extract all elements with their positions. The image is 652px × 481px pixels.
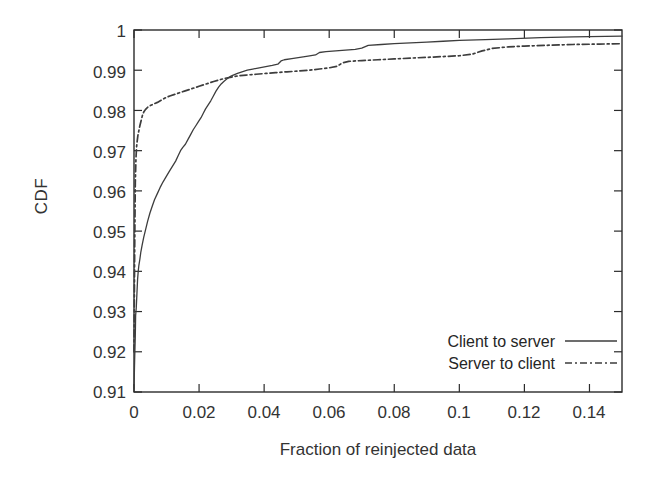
- x-tick-label: 0.02: [164, 404, 234, 421]
- legend-label-client-to-server: Client to server: [315, 334, 555, 350]
- y-tick-label: 0.91: [52, 384, 126, 401]
- x-tick-label: 0.04: [229, 404, 299, 421]
- legend-label-server-to-client: Server to client: [315, 356, 555, 372]
- x-tick-label: 0: [99, 404, 169, 421]
- y-axis-title: CDF: [32, 151, 52, 241]
- y-tick-label: 0.95: [52, 224, 126, 241]
- y-tick-label: 0.98: [52, 104, 126, 121]
- x-tick-label: 0.1: [424, 404, 494, 421]
- x-tick-label: 0.12: [489, 404, 559, 421]
- cdf-chart-figure: CDF Fraction of reinjected data 0.91 0.9…: [0, 0, 652, 481]
- x-tick-label: 0.08: [359, 404, 429, 421]
- legend-line-samples: [565, 341, 617, 363]
- x-tick-label: 0.14: [554, 404, 624, 421]
- x-axis-title: Fraction of reinjected data: [134, 440, 622, 460]
- series-line-server-to-client: [134, 44, 622, 352]
- y-tick-label: 0.93: [52, 304, 126, 321]
- y-tick-label: 1: [52, 23, 126, 40]
- y-tick-label: 0.96: [52, 184, 126, 201]
- x-tick-label: 0.06: [294, 404, 364, 421]
- y-tick-label: 0.94: [52, 264, 126, 281]
- y-tick-label: 0.97: [52, 144, 126, 161]
- y-tick-label: 0.92: [52, 344, 126, 361]
- y-tick-label: 0.99: [52, 64, 126, 81]
